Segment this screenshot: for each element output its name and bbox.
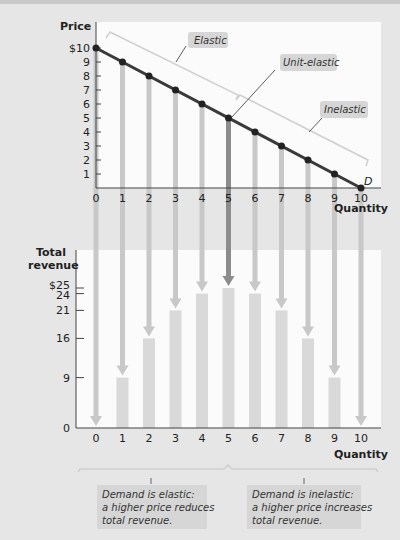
top-x-tick-label: 6 bbox=[252, 192, 259, 205]
demand-point bbox=[199, 101, 206, 108]
revenue-bar bbox=[249, 294, 261, 428]
top-y-tick-label: 4 bbox=[83, 126, 90, 139]
inelastic-note-line3: total revenue. bbox=[252, 515, 322, 526]
demand-point bbox=[119, 59, 126, 66]
top-y-label: Price bbox=[60, 20, 91, 33]
bottom-x-tick-label: 1 bbox=[119, 432, 126, 445]
bottom-x-tick-label: 8 bbox=[305, 432, 312, 445]
bottom-brace bbox=[78, 465, 378, 472]
demand-point bbox=[305, 157, 312, 164]
top-y-tick-label: 1 bbox=[83, 168, 90, 181]
bottom-x-tick-label: 4 bbox=[199, 432, 206, 445]
demand-point bbox=[93, 45, 100, 52]
top-y-tick-label: 6 bbox=[83, 98, 90, 111]
bottom-y-label-line1: Total bbox=[36, 246, 66, 259]
elastic-note-line2: a higher price reduces bbox=[102, 502, 214, 513]
bottom-x-tick-label: 5 bbox=[225, 432, 232, 445]
demand-point bbox=[225, 115, 232, 122]
inelastic-note-line2: a higher price increases bbox=[252, 502, 372, 513]
bottom-x-tick-label: 3 bbox=[172, 432, 179, 445]
revenue-bar bbox=[117, 378, 129, 428]
top-x-tick-label: 3 bbox=[172, 192, 179, 205]
inelastic-label: Inelastic bbox=[324, 104, 366, 115]
bottom-x-tick-label: 0 bbox=[93, 432, 100, 445]
elastic-label: Elastic bbox=[194, 35, 227, 46]
revenue-bar bbox=[223, 288, 235, 428]
bottom-x-tick-label: 10 bbox=[354, 432, 368, 445]
revenue-bar bbox=[170, 310, 182, 428]
elastic-note-line3: total revenue. bbox=[102, 515, 172, 526]
top-y-tick-label: 2 bbox=[83, 154, 90, 167]
bottom-y-tick-label: 16 bbox=[56, 332, 70, 345]
elasticity-figure: $10987654321 012345678910 Price Quantity… bbox=[0, 0, 400, 540]
top-y-tick-label: 8 bbox=[83, 70, 90, 83]
bottom-x-tick-label: 2 bbox=[146, 432, 153, 445]
top-y-tick-label: 3 bbox=[83, 140, 90, 153]
demand-label: D bbox=[364, 175, 372, 188]
top-y-tick-label: $10 bbox=[69, 42, 90, 55]
top-x-tick-label: 2 bbox=[146, 192, 153, 205]
top-x-label: Quantity bbox=[334, 202, 388, 215]
demand-point bbox=[331, 171, 338, 178]
bottom-x-ticks: 012345678910 bbox=[93, 432, 369, 445]
revenue-bar bbox=[276, 310, 288, 428]
revenue-bar bbox=[143, 338, 155, 428]
bottom-x-tick-label: 6 bbox=[252, 432, 259, 445]
bottom-x-tick-label: 9 bbox=[331, 432, 338, 445]
elastic-note-line1: Demand is elastic: bbox=[102, 489, 195, 500]
top-x-ticks: 012345678910 bbox=[93, 192, 369, 205]
top-x-tick-label: 4 bbox=[199, 192, 206, 205]
top-x-tick-label: 7 bbox=[278, 192, 285, 205]
bottom-y-label-line2: revenue bbox=[28, 259, 79, 272]
revenue-bar bbox=[196, 294, 208, 428]
revenue-bar bbox=[302, 338, 314, 428]
bottom-x-tick-label: 7 bbox=[278, 432, 285, 445]
top-y-tick-label: 9 bbox=[83, 56, 90, 69]
bottom-y-tick-label: 0 bbox=[63, 422, 70, 435]
revenue-bar bbox=[329, 378, 341, 428]
bottom-y-tick-label: 21 bbox=[56, 304, 70, 317]
top-x-tick-label: 5 bbox=[225, 192, 232, 205]
top-x-tick-label: 8 bbox=[305, 192, 312, 205]
top-x-tick-label: 0 bbox=[93, 192, 100, 205]
inelastic-note-line1: Demand is inelastic: bbox=[252, 489, 354, 500]
bottom-y-tick-label: $25 bbox=[49, 279, 70, 292]
demand-point bbox=[172, 87, 179, 94]
bottom-y-tick-label: 9 bbox=[63, 372, 70, 385]
demand-point bbox=[252, 129, 259, 136]
demand-point bbox=[146, 73, 153, 80]
bottom-x-label: Quantity bbox=[334, 448, 388, 461]
demand-point bbox=[278, 143, 285, 150]
top-x-tick-label: 1 bbox=[119, 192, 126, 205]
top-y-tick-label: 7 bbox=[83, 84, 90, 97]
top-y-tick-label: 5 bbox=[83, 112, 90, 125]
unit-elastic-label: Unit-elastic bbox=[283, 57, 340, 68]
